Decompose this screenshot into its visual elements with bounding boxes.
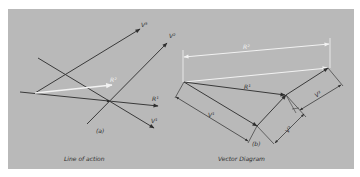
panel-a-tag: (a): [96, 127, 104, 134]
line-v1: [38, 58, 154, 128]
r2-dimension: [184, 44, 329, 57]
panel-b-tag: (b): [252, 140, 261, 147]
label-v1: V¹: [151, 117, 158, 124]
vector-figure: V³ V² R¹ V¹ R² (a) Line of action R² R¹ …: [0, 0, 360, 177]
label-v1: V¹: [208, 111, 215, 118]
r1-vector: [184, 82, 285, 95]
v2-extension: [286, 95, 306, 117]
label-r1: R¹: [244, 83, 251, 90]
intersection-point: [107, 100, 110, 103]
label-v2: V²: [169, 32, 176, 39]
panel-a-caption: Line of action: [64, 155, 105, 162]
v1-dimension: [176, 97, 248, 141]
v1-extension-top: [175, 82, 184, 98]
v3-extension: [328, 68, 343, 86]
panel-b-vector-diagram: R² R¹ V¹ V² V³ (b) Vector Diagram: [175, 38, 343, 163]
label-v3: V³: [141, 21, 148, 28]
v3-dimension: [300, 85, 341, 110]
label-r1: R¹: [152, 95, 159, 102]
v2-vector: [257, 95, 286, 126]
panel-b-caption: Vector Diagram: [218, 155, 265, 163]
line-r1: [20, 92, 158, 106]
line-v3: [35, 29, 140, 93]
panel-a-line-of-action: V³ V² R¹ V¹ R² (a) Line of action: [20, 21, 176, 162]
label-r2: R²: [110, 76, 117, 83]
r2-resultant: [184, 68, 328, 82]
label-r2: R²: [243, 43, 250, 50]
